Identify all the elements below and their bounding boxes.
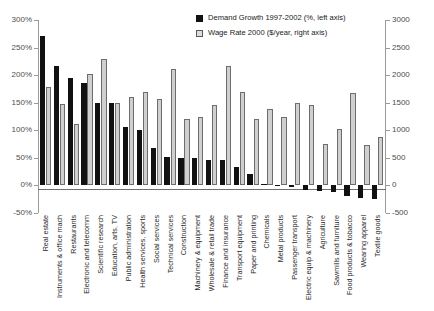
- category-label-text: Transport equipment: [236, 215, 243, 281]
- axis-tick-label: 200%: [12, 71, 32, 79]
- bar-group: [67, 20, 81, 213]
- category-label-text: Instruments & office mach: [56, 215, 63, 298]
- x-axis-category-label: Construction: [177, 215, 191, 311]
- bar-wage-rate: [254, 119, 259, 186]
- bar-group: [94, 20, 108, 213]
- category-label-text: Real estate: [42, 215, 49, 251]
- bar-group: [136, 20, 150, 213]
- bar-wage-rate: [350, 93, 355, 186]
- axis-tick-label: 150%: [12, 99, 32, 107]
- bar-group: [53, 20, 67, 213]
- x-axis-category-label: Social services: [150, 215, 164, 311]
- axis-tick: [386, 75, 390, 76]
- bar-demand-growth: [123, 127, 128, 185]
- bar-group: [247, 20, 261, 213]
- bar-demand-growth: [151, 148, 156, 185]
- axis-tick-label: 100%: [12, 126, 32, 134]
- bar-demand-growth: [109, 103, 114, 185]
- bar-group: [261, 20, 275, 213]
- bar-wage-rate: [74, 124, 79, 185]
- x-axis-category-label: Scientific research: [94, 215, 108, 311]
- axis-tick: [386, 48, 390, 49]
- x-axis-category-label: Transport equipment: [233, 215, 247, 311]
- x-axis-category-labels: Real estateInstruments & office machRest…: [39, 215, 385, 311]
- axis-tick: [34, 103, 38, 104]
- bar-demand-growth: [54, 66, 59, 185]
- bar-wage-rate: [157, 99, 162, 186]
- bar-wage-rate: [115, 103, 120, 186]
- category-label-text: Electronic and telecomm: [84, 215, 91, 294]
- bar-wage-rate: [337, 129, 342, 185]
- x-axis-category-label: Paper and printing: [247, 215, 261, 311]
- x-axis-category-label: Food products & tobacco: [344, 215, 358, 311]
- bar-demand-growth: [331, 185, 336, 191]
- x-axis-category-label: Machinery & equipment: [191, 215, 205, 311]
- bar-demand-growth: [68, 78, 73, 185]
- category-label-text: Social services: [153, 215, 160, 263]
- axis-tick: [34, 130, 38, 131]
- axis-tick-label: 0%: [20, 181, 32, 189]
- x-axis-category-label: Electric equip & machinery: [302, 215, 316, 311]
- axis-tick-label: 0: [392, 181, 396, 189]
- category-label-text: Restaurants: [70, 215, 77, 254]
- axis-tick-label: 300%: [12, 16, 32, 24]
- bar-wage-rate: [378, 137, 383, 186]
- category-label-text: Wearing apparel: [361, 215, 368, 268]
- y-axis-right: [385, 20, 386, 213]
- bar-group: [344, 20, 358, 213]
- bar-demand-growth: [358, 185, 363, 197]
- bar-wage-rate: [129, 97, 134, 185]
- axis-tick-label: -500: [392, 209, 408, 217]
- category-label-text: Passenger transport: [292, 215, 299, 280]
- axis-tick: [386, 158, 390, 159]
- x-axis-category-label: Chemicals: [261, 215, 275, 311]
- bar-wage-rate: [212, 105, 217, 185]
- category-label-text: Paper and printing: [250, 215, 257, 274]
- bar-group: [274, 20, 288, 213]
- category-label-text: Health services, sports: [139, 215, 146, 288]
- bar-demand-growth: [81, 83, 86, 185]
- category-label-text: Wholesale & retail trade: [208, 215, 215, 291]
- axis-tick: [386, 130, 390, 131]
- bar-wage-rate: [267, 109, 272, 186]
- bar-demand-growth: [289, 185, 294, 187]
- bar-group: [164, 20, 178, 213]
- bar-demand-growth: [137, 130, 142, 186]
- axis-tick-label: 500: [392, 154, 405, 162]
- bar-demand-growth: [220, 160, 225, 185]
- bar-group: [302, 20, 316, 213]
- axis-tick-label: 2500: [392, 44, 410, 52]
- bar-wage-rate: [198, 117, 203, 185]
- bar-group: [288, 20, 302, 213]
- x-axis-category-label: Sawmills and furniture: [330, 215, 344, 311]
- bar-demand-growth: [164, 157, 169, 185]
- bar-demand-growth: [178, 158, 183, 185]
- bar-demand-growth: [234, 167, 239, 185]
- bar-wage-rate: [323, 144, 328, 186]
- x-axis-category-label: Electronic and telecomm: [81, 215, 95, 311]
- axis-tick-label: 2000: [392, 71, 410, 79]
- bar-wage-rate: [87, 74, 92, 186]
- chart-container: Demand Growth 1997-2002 (%, left axis) W…: [0, 0, 434, 311]
- bar-demand-growth: [317, 185, 322, 191]
- x-axis-category-label: Education, arts, TV: [108, 215, 122, 311]
- category-label-text: Scientific research: [98, 215, 105, 274]
- axis-tick: [34, 48, 38, 49]
- bar-group: [150, 20, 164, 213]
- category-label-text: Construction: [181, 215, 188, 255]
- category-label-text: Food products & tobacco: [347, 215, 354, 295]
- bar-group: [371, 20, 385, 213]
- x-axis-category-label: Passenger transport: [288, 215, 302, 311]
- axis-tick: [34, 185, 38, 186]
- axis-tick: [386, 103, 390, 104]
- axis-tick: [34, 213, 38, 214]
- axis-tick-label: 1000: [392, 126, 410, 134]
- bar-group: [177, 20, 191, 213]
- bar-wage-rate: [281, 117, 286, 185]
- bar-group: [122, 20, 136, 213]
- x-axis-category-label: Wholesale & retail trade: [205, 215, 219, 311]
- bar-group: [205, 20, 219, 213]
- x-axis-category-label: Agriculture: [316, 215, 330, 311]
- bar-demand-growth: [206, 160, 211, 186]
- axis-tick: [34, 75, 38, 76]
